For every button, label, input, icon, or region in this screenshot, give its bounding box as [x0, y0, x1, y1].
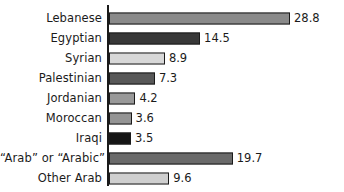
- bar[interactable]: [109, 12, 290, 24]
- bar-group: 8.9: [109, 52, 187, 65]
- value-label: 7.3: [159, 72, 177, 85]
- bar[interactable]: [109, 52, 165, 64]
- chart-row: Jordanian 4.2: [0, 88, 344, 108]
- value-label: 14.5: [204, 32, 230, 45]
- value-label: 8.9: [169, 52, 187, 65]
- category-label: Lebanese: [0, 12, 102, 25]
- bar[interactable]: [109, 32, 200, 44]
- bar[interactable]: [109, 172, 169, 184]
- bar-group: 4.2: [109, 92, 158, 105]
- category-label: Egyptian: [0, 32, 102, 45]
- category-label: Palestinian: [0, 72, 102, 85]
- bar-group: 3.5: [109, 132, 153, 145]
- bar-group: 28.8: [109, 12, 320, 25]
- category-label: “Arab” or “Arabic”: [0, 152, 102, 165]
- bar-group: 14.5: [109, 32, 230, 45]
- value-label: 28.8: [294, 12, 320, 25]
- category-label: Other Arab: [0, 172, 102, 185]
- bar[interactable]: [109, 112, 132, 124]
- bar[interactable]: [109, 92, 135, 104]
- value-label: 3.5: [135, 132, 153, 145]
- category-label: Jordanian: [0, 92, 102, 105]
- chart-row: Egyptian 14.5: [0, 28, 344, 48]
- bar[interactable]: [109, 72, 155, 84]
- value-label: 4.2: [139, 92, 157, 105]
- value-label: 9.6: [173, 172, 191, 185]
- value-label: 3.6: [136, 112, 154, 125]
- chart-row: Palestinian 7.3: [0, 68, 344, 88]
- chart-row: Lebanese 28.8: [0, 8, 344, 28]
- bar-group: 9.6: [109, 172, 192, 185]
- plot-area: Lebanese 28.8 Egyptian 14.5 Syrian 8.9 P…: [0, 0, 344, 192]
- bar[interactable]: [109, 152, 233, 164]
- chart-row: Moroccan 3.6: [0, 108, 344, 128]
- category-label: Syrian: [0, 52, 102, 65]
- category-label: Iraqi: [0, 132, 102, 145]
- chart-row: Syrian 8.9: [0, 48, 344, 68]
- value-label: 19.7: [237, 152, 263, 165]
- bar-group: 7.3: [109, 72, 177, 85]
- bar-group: 3.6: [109, 112, 154, 125]
- bar[interactable]: [109, 132, 131, 144]
- chart-row: Other Arab 9.6: [0, 168, 344, 188]
- chart-row: “Arab” or “Arabic” 19.7: [0, 148, 344, 168]
- bar-chart: Lebanese 28.8 Egyptian 14.5 Syrian 8.9 P…: [0, 0, 344, 192]
- category-label: Moroccan: [0, 112, 102, 125]
- chart-row: Iraqi 3.5: [0, 128, 344, 148]
- bar-group: 19.7: [109, 152, 262, 165]
